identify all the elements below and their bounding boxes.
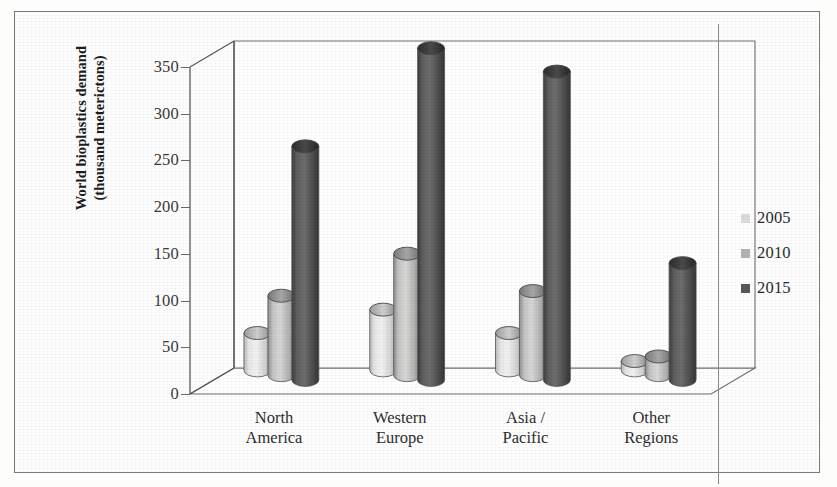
plot-area: 050100150200250300350 — [133, 34, 723, 434]
x-axis-category-label-line: Western — [340, 408, 460, 428]
legend-item: 2010 — [741, 243, 791, 263]
x-axis-category-label: Asia /Pacific — [466, 408, 586, 448]
legend-divider — [718, 24, 719, 484]
x-axis-category-label-line: Europe — [340, 428, 460, 448]
y-tick-mark — [181, 67, 190, 68]
x-axis-category-label-line: Regions — [591, 428, 711, 448]
legend-swatch-icon — [741, 214, 750, 223]
x-axis-category-label: OtherRegions — [591, 408, 711, 448]
bar-cylinder — [268, 289, 295, 381]
chart-frame: 050100150200250300350 — [14, 11, 820, 473]
x-axis-category-label-line: Other — [591, 408, 711, 428]
bar-cylinder — [244, 327, 271, 377]
x-axis-category-label: WesternEurope — [340, 408, 460, 448]
legend-label: 2015 — [757, 278, 791, 298]
bar-cylinder — [292, 140, 319, 387]
x-axis-category-label: NorthAmerica — [214, 408, 334, 448]
chart-3d-scene — [133, 34, 723, 434]
y-axis-title: World bioplastics demand (thousand meter… — [71, 0, 111, 278]
legend-item: 2015 — [741, 278, 791, 298]
y-tick-mark — [181, 347, 190, 348]
y-tick-mark — [181, 160, 190, 161]
bar-cylinder — [645, 350, 672, 382]
x-axis-category-label-line: Pacific — [466, 428, 586, 448]
bar-cylinder — [543, 65, 570, 386]
y-tick-mark — [181, 114, 190, 115]
x-axis-category-labels: NorthAmericaWesternEuropeAsia /PacificOt… — [133, 34, 723, 94]
legend-swatch-icon — [741, 249, 750, 258]
y-tick-mark — [181, 207, 190, 208]
y-axis-title-line-1: World bioplastics demand — [73, 46, 91, 210]
y-tick-mark — [181, 254, 190, 255]
legend-swatch-icon — [741, 284, 750, 293]
bar-cylinder — [669, 257, 696, 387]
chart-legend: 200520102015 — [741, 208, 791, 313]
chart-screenshot: 050100150200250300350 — [0, 0, 837, 487]
y-tick-mark — [181, 394, 190, 395]
y-tick-mark — [181, 301, 190, 302]
x-axis-category-label-line: America — [214, 428, 334, 448]
bar-cylinder — [495, 327, 522, 377]
legend-item: 2005 — [741, 208, 791, 228]
legend-label: 2005 — [757, 208, 791, 228]
bar-cylinder — [394, 247, 421, 381]
bar-cylinder — [621, 355, 648, 377]
y-axis-title-line-2: (thousand meterictons) — [91, 55, 109, 200]
x-axis-category-label-line: North — [214, 408, 334, 428]
x-axis-category-label-line: Asia / — [466, 408, 586, 428]
bar-cylinder — [370, 303, 397, 377]
bar-cylinder — [519, 285, 546, 382]
legend-label: 2010 — [757, 243, 791, 263]
